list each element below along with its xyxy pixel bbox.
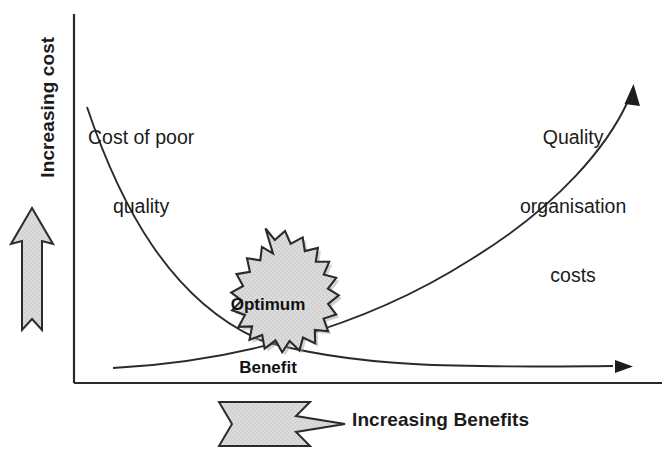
quality-organisation-costs-label-line2: organisation [520, 195, 626, 218]
cost-of-poor-quality-label: Cost of poor quality [88, 80, 194, 264]
quality-organisation-costs-label-line1: Quality [520, 126, 626, 149]
y-axis-title: Increasing cost [37, 17, 59, 197]
quality-cost-optimum-benefit-diagram: Cost of poor quality Quality organisatio… [0, 0, 662, 456]
optimum-benefit-label: Optimum Benefit [216, 254, 320, 420]
optimum-benefit-label-line2: Benefit [216, 358, 320, 379]
cost-of-poor-quality-label-line2: quality [88, 195, 194, 218]
cost-of-poor-quality-arrowhead [615, 360, 633, 373]
quality-organisation-costs-label: Quality organisation costs [520, 80, 626, 333]
quality-organisation-costs-label-line3: costs [520, 264, 626, 287]
cost-of-poor-quality-label-line1: Cost of poor [88, 126, 194, 149]
increasing-cost-arrow [11, 208, 53, 330]
quality-organisation-costs-arrowhead [625, 84, 641, 106]
x-axis-title: Increasing Benefits [352, 409, 529, 431]
optimum-benefit-label-line1: Optimum [216, 295, 320, 316]
